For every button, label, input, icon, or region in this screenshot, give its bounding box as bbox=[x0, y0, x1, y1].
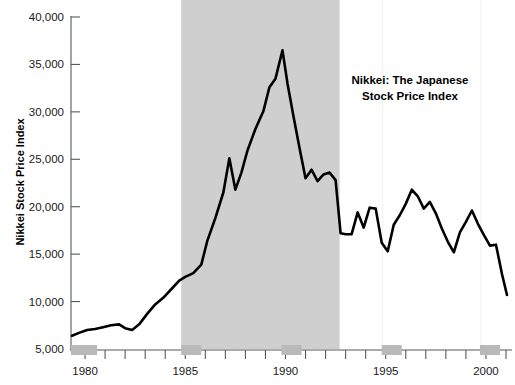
y-tick-label-10,000: 10,000 bbox=[29, 296, 64, 308]
x-tick-label-1990: 1990 bbox=[273, 365, 299, 377]
shaded-bands-group bbox=[181, 0, 339, 349]
recession-bar-1980 bbox=[71, 345, 97, 355]
y-tick-label-25,000: 25,000 bbox=[29, 153, 64, 165]
recession-bar-1990 bbox=[281, 345, 301, 355]
y-tick-label-30,000: 30,000 bbox=[29, 106, 64, 118]
x-tick-label-1985: 1985 bbox=[172, 365, 198, 377]
chart-title-line-2: Stock Price Index bbox=[362, 90, 458, 102]
x-tick-label-1995: 1995 bbox=[373, 365, 399, 377]
x-tick-label-2000: 2000 bbox=[473, 365, 499, 377]
nikkei-line-chart: 40,00035,00030,00025,00020,00015,00010,0… bbox=[0, 0, 515, 385]
y-tick-label-40,000: 40,000 bbox=[29, 11, 64, 23]
chart-title-line-1: Nikkei: The Japanese bbox=[352, 74, 469, 86]
y-tick-label-15,000: 15,000 bbox=[29, 248, 64, 260]
y-tick-label-35,000: 35,000 bbox=[29, 58, 64, 70]
recession-bar-1995 bbox=[382, 345, 402, 355]
recession-bar-2000 bbox=[480, 345, 500, 355]
chart-figure: 40,00035,00030,00025,00020,00015,00010,0… bbox=[0, 0, 515, 385]
y-tick-label-5,000: 5,000 bbox=[35, 343, 64, 355]
y-axis-label: Nikkei Stock Price Index bbox=[14, 118, 26, 246]
bubble-period-band bbox=[181, 0, 339, 349]
x-tick-label-1980: 1980 bbox=[72, 365, 98, 377]
y-tick-label-20,000: 20,000 bbox=[29, 201, 64, 213]
recession-bar-1985 bbox=[181, 345, 201, 355]
